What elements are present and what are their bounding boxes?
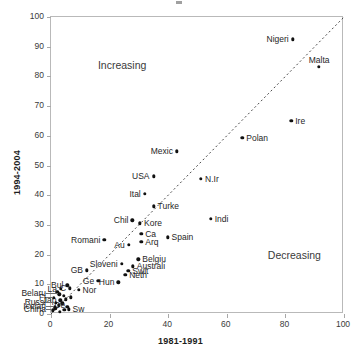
data-point-marker [152,205,155,208]
data-point-marker [138,222,141,225]
quadrant-annotation-increasing: Increasing [98,59,146,71]
point-label: GB [71,266,83,275]
point-label: Romani [71,236,100,245]
data-point-marker [58,310,61,313]
label-leader-line [46,306,54,307]
y-tick-mark [47,17,51,18]
data-point-marker [166,236,169,239]
y-tick-mark [47,76,51,77]
data-point-marker [67,308,70,311]
y-tick-mark [47,106,51,107]
point-label: Nigeri [267,35,289,44]
label-leader-line [46,309,52,310]
point-label: Arq [145,238,158,247]
data-point-marker [209,217,212,220]
y-tick-mark [47,136,51,137]
y-tick-label: 50 [20,160,44,169]
y-tick-mark [47,166,51,167]
data-point-marker [77,288,80,291]
scatter-chart: IncreasingDecreasing NigeriMaltaIrePolan… [0,0,361,356]
x-tick-label: 40 [162,320,171,329]
y-tick-label: 60 [20,131,44,140]
data-point-marker [140,232,143,235]
y-tick-label: 40 [20,190,44,199]
data-point-marker [127,243,130,246]
x-tick-label: 20 [104,320,113,329]
identity-reference-line [51,17,344,314]
y-tick-label: 10 [20,279,44,288]
x-tick-mark [227,314,228,318]
y-tick-label: 100 [20,12,44,21]
data-point-marker [290,119,293,122]
data-point-marker [117,281,120,284]
data-point-marker [103,238,106,241]
y-axis-title: 1994-2004 [12,150,22,195]
y-tick-mark [47,195,51,196]
top-edge-artifact [176,1,182,4]
point-label-outside: China [24,304,46,314]
label-leader-line [46,302,55,303]
data-point-marker [68,287,71,290]
x-tick-label: 60 [221,320,230,329]
point-label: Hun [99,278,115,287]
y-tick-label: 90 [20,41,44,50]
x-tick-mark [51,314,52,318]
data-point-marker [175,150,178,153]
x-tick-mark [344,314,345,318]
data-point-marker [140,240,143,243]
point-label: USA [132,172,149,181]
x-tick-label: 100 [336,320,350,329]
x-tick-mark [168,314,169,318]
y-tick-label: 70 [20,101,44,110]
data-point-marker [120,262,123,265]
y-tick-mark [47,255,51,256]
data-point-marker [69,296,72,299]
point-label: Ital [129,189,140,198]
data-point-marker [241,136,244,139]
point-label: Au [114,241,124,250]
data-point-marker [317,65,320,68]
data-point-marker [85,269,88,272]
data-point-marker [199,177,202,180]
point-label: Turke [158,202,179,211]
y-tick-mark [47,225,51,226]
point-label: Mexic [151,147,173,156]
point-label: Sloveni [90,259,118,268]
data-point-marker [291,38,294,41]
y-tick-mark [47,47,51,48]
quadrant-annotation-decreasing: Decreasing [268,249,321,261]
point-label: Spain [172,233,194,242]
point-label: Neth [129,271,147,280]
point-label: Chil [114,216,129,225]
point-label: Indi [215,214,229,223]
point-label: Nor [83,285,97,294]
data-point-marker [143,192,146,195]
x-tick-mark [285,314,286,318]
point-label: La [47,285,56,294]
x-axis-title: 1981-1991 [0,336,361,346]
data-point-marker [152,174,155,177]
y-tick-label: 20 [20,249,44,258]
point-label: Kore [144,219,162,228]
point-label: Malta [309,56,330,65]
y-tick-label: 80 [20,71,44,80]
point-label: Sw [73,305,85,314]
x-tick-mark [110,314,111,318]
label-leader-line [46,297,53,298]
point-label: Ire [295,117,305,126]
label-leader-line [46,293,58,294]
plot-area: IncreasingDecreasing NigeriMaltaIrePolan… [50,16,343,313]
y-tick-label: 30 [20,220,44,229]
data-point-marker [123,273,126,276]
point-label: Polan [246,133,268,142]
x-tick-label: 80 [280,320,289,329]
data-point-marker [131,218,134,221]
x-tick-label: 0 [48,320,53,329]
point-label: N.Ir [205,175,219,184]
